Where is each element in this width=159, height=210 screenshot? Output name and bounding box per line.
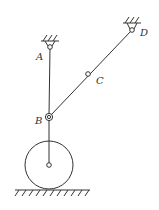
- label-a: A: [35, 51, 43, 62]
- link-db: [51, 31, 131, 115]
- joint-c: [86, 72, 91, 77]
- wheel-center-joint: [47, 163, 52, 168]
- ground: [15, 190, 90, 196]
- joint-d: [130, 28, 135, 33]
- link-ab: [49, 48, 50, 115]
- label-c: C: [96, 75, 104, 86]
- label-b: B: [34, 115, 42, 126]
- joint-b-inner: [47, 115, 50, 118]
- joint-a: [48, 45, 53, 50]
- label-d: D: [139, 27, 148, 38]
- mechanism-diagram: A D C B: [0, 0, 159, 210]
